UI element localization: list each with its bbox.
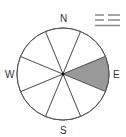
north-label: N [60,14,67,24]
west-label: W [5,70,14,80]
east-label: E [113,70,120,80]
center-point [62,73,65,76]
south-label: S [60,126,67,136]
fog-icon [95,15,120,26]
